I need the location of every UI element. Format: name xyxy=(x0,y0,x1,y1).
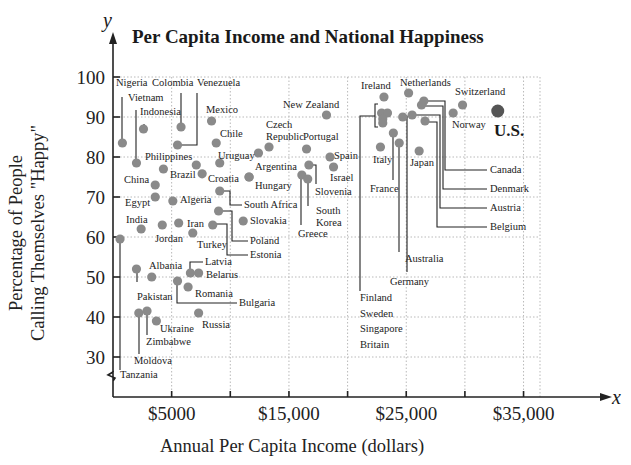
data-point xyxy=(458,100,467,109)
country-label: Venezuela xyxy=(197,77,240,88)
country-label: Slovenia xyxy=(315,186,352,197)
country-label: Japan xyxy=(410,157,435,168)
data-point xyxy=(389,128,398,137)
country-label: Israel xyxy=(330,172,353,183)
data-point xyxy=(158,220,167,229)
data-point xyxy=(137,224,146,233)
country-label: Latvia xyxy=(205,256,232,267)
country-label: Ukraine xyxy=(160,323,194,334)
country-label: Finland xyxy=(360,292,393,303)
data-point xyxy=(378,118,387,127)
country-label: Norway xyxy=(452,119,487,130)
y-tick-label: 100 xyxy=(77,67,106,88)
y-axis-label-line2: Calling Themselves "Happy" xyxy=(28,125,48,341)
data-points xyxy=(115,88,504,325)
country-label: Iran xyxy=(187,218,205,229)
data-point xyxy=(415,146,424,155)
country-label: Singapore xyxy=(360,323,403,334)
data-point xyxy=(395,138,404,147)
data-point xyxy=(322,110,331,119)
country-label: Colombia xyxy=(152,77,194,88)
y-tick-label: 70 xyxy=(86,187,105,208)
country-label: Slovakia xyxy=(250,215,287,226)
country-label: Philippines xyxy=(145,151,192,162)
y-axis-arrow-icon xyxy=(109,32,117,44)
country-label: Italy xyxy=(373,154,393,165)
country-label: Bulgaria xyxy=(239,297,275,308)
country-label: Croatia xyxy=(208,173,239,184)
country-label: Romania xyxy=(195,288,233,299)
leader-line xyxy=(375,104,378,127)
y-axis-label-line1: Percentage of People xyxy=(6,155,26,311)
country-label: South Africa xyxy=(244,199,298,210)
data-point xyxy=(183,282,192,291)
x-tick-label: $5000 xyxy=(148,403,196,424)
country-label: Turkey xyxy=(197,239,228,250)
x-axis-variable: x xyxy=(611,386,621,408)
data-point xyxy=(304,160,313,169)
data-point xyxy=(118,138,127,147)
data-point xyxy=(174,218,183,227)
x-axis-label: Annual Per Capita Income (dollars) xyxy=(160,436,424,457)
country-label: Pakistan xyxy=(137,291,173,302)
y-tick-label: 50 xyxy=(86,267,105,288)
data-point xyxy=(188,228,197,237)
y-tick-label: 90 xyxy=(86,107,105,128)
country-label: Portugal xyxy=(303,131,339,142)
data-point xyxy=(142,306,151,315)
data-point xyxy=(208,220,217,229)
country-label: Estonia xyxy=(250,249,282,260)
country-label: Albania xyxy=(149,260,183,271)
data-point xyxy=(173,276,182,285)
data-point xyxy=(449,108,458,117)
country-label: Korea xyxy=(316,217,342,228)
data-point xyxy=(239,216,248,225)
y-tick-label: 80 xyxy=(86,147,105,168)
data-point xyxy=(303,174,312,183)
country-label: Tanzania xyxy=(120,369,158,380)
country-label: China xyxy=(124,174,149,185)
data-point xyxy=(302,144,311,153)
country-label: Denmark xyxy=(490,183,530,194)
data-point xyxy=(215,186,224,195)
data-point xyxy=(329,162,338,171)
country-label: Austria xyxy=(490,202,521,213)
x-tick-label: $35,000 xyxy=(493,403,555,424)
data-point xyxy=(115,234,124,243)
country-label: Belarus xyxy=(206,269,238,280)
y-tick-label: 60 xyxy=(86,227,105,248)
country-label: Greece xyxy=(298,228,328,239)
country-label: Britain xyxy=(360,339,390,350)
leader-line xyxy=(425,122,487,227)
country-label: Ireland xyxy=(361,80,391,91)
x-tick-label: $15,000 xyxy=(258,403,320,424)
x-axis-arrow-icon xyxy=(600,393,612,401)
country-label: Russia xyxy=(202,319,230,330)
data-point xyxy=(398,112,407,121)
data-point xyxy=(147,272,156,281)
country-label: Canada xyxy=(490,164,522,175)
data-point xyxy=(491,105,504,118)
country-label: Belgium xyxy=(490,221,526,232)
country-label: Zimbabwe xyxy=(146,336,191,347)
country-label: Australia xyxy=(405,253,444,264)
data-point xyxy=(132,264,141,273)
country-label: Switzerland xyxy=(455,86,506,97)
data-point xyxy=(214,206,223,215)
country-label: Uruguay xyxy=(218,150,255,161)
data-point xyxy=(408,110,417,119)
y-axis-variable: y xyxy=(101,9,112,32)
chart-canvas: Per Capita Income and National Happiness… xyxy=(0,0,631,465)
country-label: Mexico xyxy=(206,104,238,115)
country-label: Moldova xyxy=(134,355,172,366)
country-label: New Zealand xyxy=(283,99,340,110)
data-point xyxy=(379,92,388,101)
country-label: Czech xyxy=(266,119,293,130)
data-point xyxy=(168,196,177,205)
data-point xyxy=(244,172,253,181)
country-label: Germany xyxy=(390,276,430,287)
country-label: Egypt xyxy=(125,197,150,208)
country-label: Poland xyxy=(250,235,280,246)
data-point xyxy=(212,138,221,147)
data-point xyxy=(173,140,182,149)
